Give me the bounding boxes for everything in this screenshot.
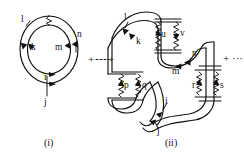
panel-i-label-n: n <box>77 29 82 39</box>
operator-group-between: + + <box>88 53 114 65</box>
panel-ii-label-i: i <box>165 96 168 106</box>
panel-i-label-m: m <box>55 42 63 52</box>
panel-i: l k m n i j (i) <box>20 14 82 149</box>
plus-sign-after: + <box>223 52 229 64</box>
panel-ii-label-j: j <box>156 126 160 136</box>
plus-sign-between: + <box>88 53 94 65</box>
panel-ii-label-l: l <box>124 12 127 22</box>
panel-ii-label-p: p <box>124 80 129 90</box>
panel-ii-label-k: k <box>136 36 141 46</box>
panel-i-label-j: j <box>43 97 47 107</box>
panel-i-wavy-line-top <box>46 16 51 25</box>
figure-page: l k m n i j (i) + + <box>0 0 244 158</box>
panel-i-label-l: l <box>21 14 24 24</box>
panel-ii-label-q: q <box>142 80 147 90</box>
plus-sign-between-2: + <box>108 53 114 65</box>
panel-ii-arrow-l <box>122 28 129 35</box>
panel-ii-label-m: m <box>172 66 180 76</box>
feynman-diagram-figure: l k m n i j (i) + + <box>0 0 244 158</box>
panel-i-arrow-l <box>21 43 28 50</box>
panel-i-label-i: i <box>44 72 47 82</box>
operator-group-after: + ··· <box>223 52 243 64</box>
panel-ii-label-r: r <box>192 80 196 90</box>
panel-ii-label-u: u <box>161 29 166 39</box>
panel-ii-label-s: s <box>220 80 224 90</box>
ellipsis-after: ··· <box>232 52 243 64</box>
panel-i-caption: (i) <box>44 137 53 149</box>
panel-ii-label-v: v <box>180 28 185 38</box>
panel-ii: l k u v n m p q r s i j (ii) <box>108 12 224 149</box>
panel-i-label-k: k <box>31 42 36 52</box>
panel-ii-label-n: n <box>192 48 197 58</box>
panel-ii-outer-left-lobe <box>112 38 143 113</box>
panel-ii-caption: (ii) <box>165 137 177 149</box>
panel-ii-arrow-k <box>129 33 135 40</box>
